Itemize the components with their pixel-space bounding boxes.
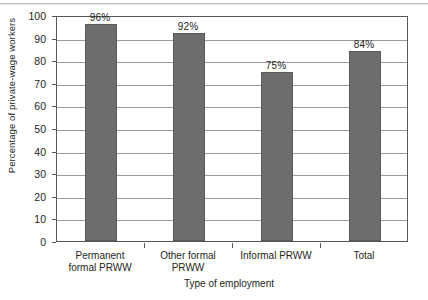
y-tick-label-10: 10 <box>0 214 46 224</box>
x-tick-mark-1 <box>144 243 145 248</box>
bar-2 <box>173 33 205 241</box>
bar-4 <box>349 51 381 241</box>
x-tick-mark-3 <box>320 243 321 248</box>
bar-value-label-1: 96% <box>70 12 130 23</box>
y-tick-label-0: 0 <box>0 237 46 247</box>
x-tick-mark-2 <box>232 243 233 248</box>
y-tick-label-40: 40 <box>0 147 46 157</box>
y-tick-mark-0 <box>52 242 56 243</box>
y-tick-label-70: 70 <box>0 79 46 89</box>
y-tick-label-80: 80 <box>0 56 46 66</box>
x-axis-title: Type of employment <box>0 278 428 289</box>
x-axis-title-text: Type of employment <box>184 278 274 289</box>
bar-value-label-3: 75% <box>246 60 306 71</box>
y-tick-label-20: 20 <box>0 192 46 202</box>
x-category-label-4: Total <box>309 250 419 262</box>
y-tick-label-100: 100 <box>0 11 46 21</box>
y-tick-label-60: 60 <box>0 101 46 111</box>
y-tick-label-30: 30 <box>0 169 46 179</box>
bar-3 <box>261 72 293 242</box>
bar-chart-figure: Percentage of private-wage workers 01020… <box>0 0 428 300</box>
y-tick-label-90: 90 <box>0 34 46 44</box>
bar-1 <box>85 24 117 241</box>
scan-artifact-line-secondary <box>0 4 428 5</box>
bar-value-label-4: 84% <box>334 39 394 50</box>
bar-value-label-2: 92% <box>158 21 218 32</box>
y-tick-label-50: 50 <box>0 124 46 134</box>
